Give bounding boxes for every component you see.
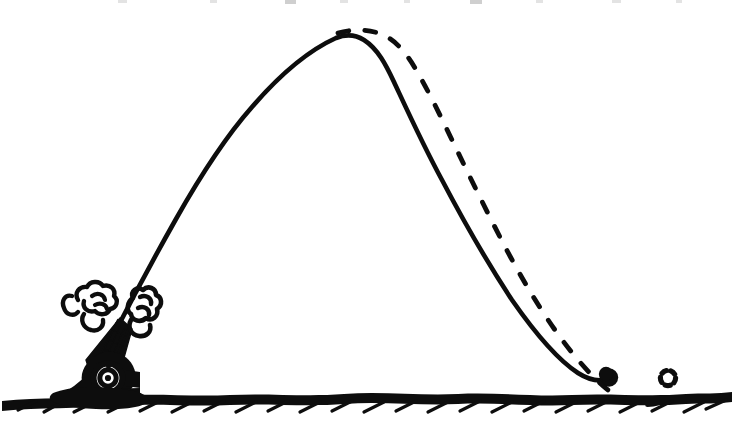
cannon-trajectory-figure: Cannon projectile trajectory comparison …: [0, 0, 734, 427]
illustration-canvas: [0, 0, 734, 427]
